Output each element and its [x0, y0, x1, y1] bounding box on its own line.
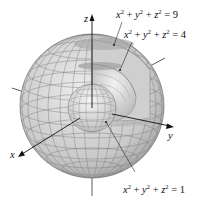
equation-inner: x2 + y2 + z2 = 1 [122, 183, 185, 195]
z-axis-label: z [83, 13, 88, 24]
nested-spheres-diagram: z y x x2 + y2 + z2 = 9 x2 + y2 + z2 = 4 … [0, 0, 200, 201]
x-axis-label: x [9, 149, 15, 160]
y-arrowhead [166, 124, 174, 130]
equation-middle: x2 + y2 + z2 = 4 [123, 28, 187, 40]
y-axis-label: y [167, 130, 173, 141]
y-axis-back [150, 58, 165, 66]
z-arrowhead [90, 14, 95, 21]
x-arrowhead [18, 151, 25, 158]
equation-outer: x2 + y2 + z2 = 9 [115, 8, 178, 20]
